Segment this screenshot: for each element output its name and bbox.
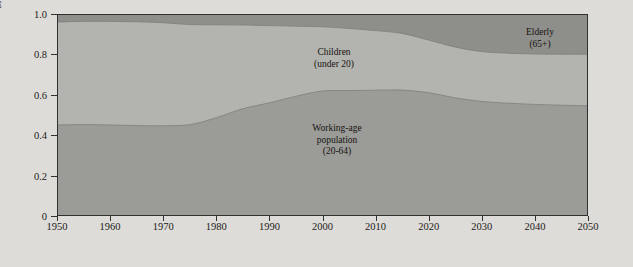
x-tick-label: 1980 (206, 221, 227, 232)
x-tick-mark (376, 216, 377, 221)
x-tick-mark (57, 216, 58, 221)
x-tick-label: 1970 (153, 221, 174, 232)
children-label: Children(under 20) (314, 47, 354, 70)
working-age-label-line1: Working-age (312, 123, 361, 135)
x-tick-mark (163, 216, 164, 221)
x-tick-mark (269, 216, 270, 221)
children-label-line2: (under 20) (314, 59, 354, 71)
working-age-label-line3: (20-64) (312, 146, 361, 158)
elderly-label-line2: (65+) (526, 39, 554, 51)
x-tick-mark (429, 216, 430, 221)
x-tick-label: 1990 (259, 221, 280, 232)
x-tick-label: 2040 (524, 221, 545, 232)
x-tick-mark (482, 216, 483, 221)
x-tick-mark (588, 216, 589, 221)
x-tick-mark (323, 216, 324, 221)
x-tick-label: 2030 (471, 221, 492, 232)
elderly-label-line1: Elderly (526, 27, 554, 39)
x-tick-label: 1960 (100, 221, 121, 232)
x-tick-label: 2050 (578, 221, 599, 232)
working-age-label: Working-agepopulation(20-64) (312, 123, 361, 158)
elderly-label: Elderly(65+) (526, 27, 554, 50)
x-tick-mark (110, 216, 111, 221)
x-tick-mark (216, 216, 217, 221)
stacked-area-chart (58, 15, 587, 215)
working-age-label-line2: population (312, 135, 361, 147)
x-tick-label: 2010 (365, 221, 386, 232)
x-tick-label: 2020 (418, 221, 439, 232)
chart-figure: Share of total population 00.20.40.60.81… (0, 0, 633, 267)
children-label-line1: Children (314, 47, 354, 59)
plot-area (57, 14, 588, 216)
x-tick-mark (535, 216, 536, 221)
x-tick-label: 2000 (312, 221, 333, 232)
x-tick-label: 1950 (47, 221, 68, 232)
